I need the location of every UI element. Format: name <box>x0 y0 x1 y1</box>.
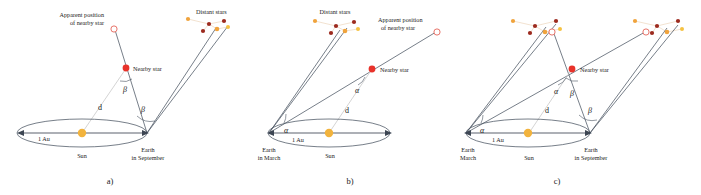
panel-c-sightlines-right <box>553 25 678 133</box>
panel-b-apparent-star-marker <box>434 29 440 35</box>
panel-c-arc-earth-left <box>481 115 483 123</box>
panel-c-earth-left-label-line2: March <box>460 154 477 161</box>
panel-a-caption: a) <box>107 176 114 186</box>
panel-a-arc-earth <box>137 116 155 121</box>
panel-a-angle-earth-label: β <box>140 105 145 114</box>
panel-a-apparent-star-marker <box>111 26 117 32</box>
panel-c-baseline-label: 1 Au <box>492 136 504 143</box>
panel-c-apparent-star-marker-right <box>549 29 555 35</box>
panel-a: Apparent position of nearby star Distant… <box>17 8 230 186</box>
panel-b-apparent-label-line1: Apparent position <box>378 16 423 23</box>
panel-c-nearby-star-label: Nearby star <box>580 66 609 73</box>
panel-a-distance-label: d <box>98 103 102 112</box>
panel-a-distant-stars-label: Distant stars <box>196 8 227 15</box>
panel-b-distant-stars <box>313 19 360 35</box>
panel-c-arc-earth-right <box>579 115 597 121</box>
panel-b-baseline-label: 1 Au <box>292 136 304 143</box>
panel-c-caption: c) <box>554 176 561 186</box>
panel-b-nearby-star-label: Nearby star <box>380 66 409 73</box>
panel-a-earth-label-line1: Earth <box>141 146 155 153</box>
parallax-figure: Apparent position of nearby star Distant… <box>0 0 701 195</box>
panel-a-sightlines <box>147 26 228 133</box>
panel-b-apparent-label-line2: of nearby star <box>381 24 415 31</box>
panel-b-sightlines <box>269 28 347 133</box>
panel-b-earth-label-line2: in March <box>258 154 281 161</box>
panel-b-arc-earth <box>284 114 286 123</box>
panel-a-earth-label-line2: in September <box>132 154 165 161</box>
panel-c-angle-earth-right-label: β <box>587 106 592 115</box>
panel-a-sun-label: Sun <box>77 152 87 159</box>
panel-c-earth-right-label-line1: Earth <box>584 146 598 153</box>
panel-a-baseline-label: 1 Au <box>38 135 50 142</box>
panel-c-sun-label: Sun <box>524 154 534 161</box>
panel-c-earth-right-label-line2: in September <box>575 154 608 161</box>
figure-canvas: Apparent position of nearby star Distant… <box>0 0 701 195</box>
panel-a-apparent-label-line2: of nearby star <box>70 19 104 26</box>
panel-c-earth-left-label-line1: Earth <box>461 146 475 153</box>
panel-b-nearby-star-marker <box>369 66 376 73</box>
panel-a-sun-marker <box>78 129 86 137</box>
panel-c-nearby-star-marker <box>569 66 576 73</box>
panel-c-baseline-arrow-right <box>585 130 592 136</box>
panel-c-distance-label: d <box>545 106 549 115</box>
panel-a-nearby-star-marker <box>123 65 130 72</box>
panel-b-caption: b) <box>346 176 353 186</box>
panel-b-baseline-arrow-right <box>385 130 392 136</box>
panel-a-apparent-label-line1: Apparent position <box>59 11 104 18</box>
panel-a-distant-stars <box>186 17 230 33</box>
panel-b-sun-marker <box>325 129 333 137</box>
panel-b-apparent-sightline <box>269 32 436 133</box>
panel-c: Nearby star α β α β d 1 Au Earth March S… <box>460 19 684 186</box>
panel-b: Distant stars Apparent position of nearb… <box>258 8 440 186</box>
panel-c-angle-earth-left-label: α <box>480 126 485 135</box>
panel-b-sun-label: Sun <box>325 152 335 159</box>
panel-c-sightlines-left <box>466 24 645 133</box>
panel-c-sun-marker <box>524 129 532 137</box>
panel-a-apparent-sightline <box>115 30 147 133</box>
panel-b-distant-stars-label: Distant stars <box>320 8 351 15</box>
panel-a-nearby-star-label: Nearby star <box>133 65 162 72</box>
panel-a-distance-line <box>82 70 125 133</box>
panel-c-angle-star-alpha-label: α <box>554 87 559 96</box>
panel-a-angle-star-label: β <box>122 85 127 94</box>
panel-b-distance-label: d <box>345 106 349 115</box>
panel-b-angle-earth-label: α <box>284 126 289 135</box>
panel-b-distance-line <box>329 72 370 133</box>
panel-c-apparent-star-marker-left <box>643 29 649 35</box>
panel-b-earth-label-line1: Earth <box>262 146 276 153</box>
panel-c-angle-star-beta-label: β <box>569 89 574 98</box>
panel-c-arc-star-beta <box>566 78 578 81</box>
